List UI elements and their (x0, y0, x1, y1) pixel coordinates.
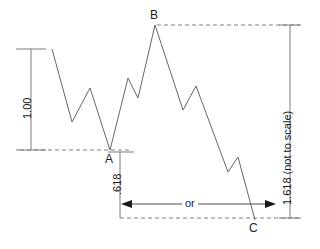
chart-canvas (0, 0, 320, 249)
label-point-b: B (150, 9, 158, 21)
label-point-a: A (105, 153, 113, 165)
label-measure-618: .618 (112, 174, 123, 195)
label-measure-one: 1.00 (22, 98, 33, 119)
label-point-c: C (249, 222, 258, 234)
label-measure-1618: 1.618 (not to scale) (282, 111, 293, 205)
fibonacci-retracement-figure: A B C 1.00 .618 1.618 (not to scale) or (0, 0, 320, 249)
price-zigzag-line (52, 25, 255, 220)
label-connector-or: or (182, 198, 198, 209)
or-arrow (121, 200, 276, 208)
